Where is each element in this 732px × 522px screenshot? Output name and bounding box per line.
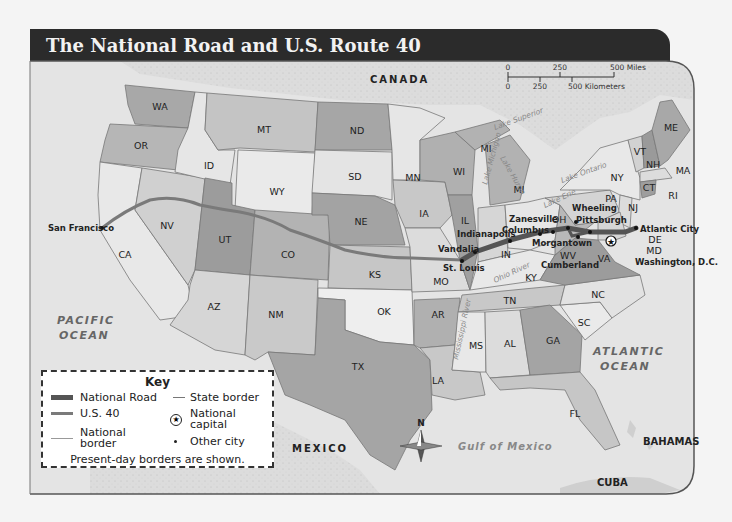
state-MN: [388, 104, 445, 180]
svg-text:OCEAN: OCEAN: [600, 360, 650, 373]
state-NV: [135, 168, 205, 285]
state-PA: [545, 190, 620, 225]
state-TX: [268, 298, 432, 470]
svg-text:Lake Huron: Lake Huron: [498, 155, 527, 197]
svg-text:AR: AR: [431, 309, 444, 320]
svg-text:RI: RI: [668, 190, 677, 201]
svg-text:KS: KS: [369, 269, 381, 280]
svg-text:NJ: NJ: [628, 202, 638, 213]
svg-text:PA: PA: [605, 193, 617, 204]
key-label-state-border: State border: [190, 392, 259, 403]
svg-text:Ohio River: Ohio River: [492, 260, 532, 285]
svg-text:San Francisco: San Francisco: [48, 223, 114, 233]
svg-text:Lake Ontario: Lake Ontario: [560, 160, 609, 185]
svg-text:IA: IA: [419, 208, 429, 219]
key-label-national-border: National border: [80, 427, 135, 449]
svg-text:Zanesville: Zanesville: [509, 214, 558, 224]
city-dot-icon: [174, 440, 177, 443]
svg-text:NH: NH: [646, 159, 660, 170]
national-border-line-icon: [51, 438, 73, 439]
svg-text:Lake Michigan: Lake Michigan: [480, 131, 503, 185]
state-VT: [628, 136, 644, 172]
state-SD: [312, 150, 392, 200]
svg-text:DE: DE: [648, 234, 661, 245]
state-OH: [505, 198, 560, 250]
svg-text:MO: MO: [433, 276, 449, 287]
svg-text:CUBA: CUBA: [597, 477, 628, 488]
svg-text:NY: NY: [611, 172, 624, 183]
svg-text:NV: NV: [160, 220, 174, 231]
state-MA: [640, 168, 672, 182]
compass-rose-icon: N: [400, 418, 442, 462]
key-label-other-city: Other city: [190, 436, 245, 447]
svg-text:MS: MS: [469, 340, 483, 351]
svg-text:Indianapolis: Indianapolis: [457, 229, 516, 239]
state-OK: [318, 288, 414, 345]
state-MO: [405, 228, 470, 292]
state-CA: [98, 162, 195, 320]
svg-text:Morgantown: Morgantown: [532, 238, 592, 248]
state-LA: [420, 345, 485, 400]
national-road-line-icon: [51, 395, 73, 400]
svg-text:AL: AL: [504, 338, 516, 349]
svg-text:CA: CA: [118, 249, 132, 260]
key-label-national-road: National Road: [80, 392, 157, 403]
us40-line-icon: [51, 412, 73, 415]
state-CT: [640, 180, 656, 198]
svg-text:ATLANTIC: ATLANTIC: [592, 345, 664, 358]
svg-text:Wheeling: Wheeling: [572, 203, 617, 213]
svg-text:CO: CO: [281, 249, 295, 260]
national-road: [462, 228, 636, 260]
svg-text:OK: OK: [377, 306, 391, 317]
state-CO: [250, 210, 330, 280]
state-FL: [490, 372, 620, 450]
svg-text:OH: OH: [552, 214, 567, 225]
state-ME: [652, 100, 690, 166]
svg-text:Gulf of Mexico: Gulf of Mexico: [458, 441, 553, 452]
svg-text:500 Kilometers: 500 Kilometers: [568, 82, 625, 91]
state-MS: [452, 312, 486, 372]
svg-text:TN: TN: [503, 295, 517, 306]
svg-text:NM: NM: [268, 309, 283, 320]
state-AL: [485, 310, 530, 378]
svg-text:NC: NC: [591, 289, 605, 300]
svg-text:★: ★: [607, 237, 615, 247]
svg-text:ID: ID: [204, 160, 214, 171]
svg-text:BAHAMAS: BAHAMAS: [643, 436, 699, 447]
state-VA: [540, 238, 640, 285]
svg-text:WV: WV: [560, 250, 576, 261]
state-UT: [195, 178, 255, 275]
svg-text:LA: LA: [432, 375, 445, 386]
state-NY: [560, 140, 640, 200]
svg-text:MN: MN: [405, 172, 420, 183]
state-AR: [414, 298, 460, 348]
svg-text:Mississippi River: Mississippi River: [451, 297, 473, 360]
state-KY: [470, 250, 555, 290]
svg-text:MEXICO: MEXICO: [292, 443, 348, 454]
svg-text:WA: WA: [152, 101, 168, 112]
svg-text:500 Miles: 500 Miles: [610, 63, 646, 72]
svg-text:AZ: AZ: [207, 301, 220, 312]
state-WV: [555, 205, 595, 255]
state-KS: [328, 245, 412, 290]
state-IN: [478, 205, 508, 262]
svg-text:MD: MD: [646, 245, 662, 256]
svg-text:OR: OR: [134, 140, 148, 151]
state-MT: [205, 93, 318, 152]
scale-bar: 0 250 500 Miles 0 250 500 Kilometers: [506, 63, 646, 91]
svg-text:N: N: [417, 418, 425, 428]
state-GA: [520, 305, 582, 375]
state-ND: [315, 102, 392, 150]
map-title: The National Road and U.S. Route 40: [46, 35, 421, 56]
state-IA: [393, 180, 452, 228]
svg-text:OCEAN: OCEAN: [59, 329, 109, 342]
svg-text:MT: MT: [257, 124, 271, 135]
state-IL: [448, 195, 478, 290]
svg-text:250: 250: [553, 63, 568, 72]
state-WI: [420, 132, 475, 195]
svg-text:ME: ME: [664, 122, 678, 133]
svg-text:MI: MI: [514, 184, 525, 195]
state-NJ: [618, 195, 632, 228]
key-title: Key: [43, 375, 272, 389]
svg-text:PACIFIC: PACIFIC: [57, 314, 115, 327]
